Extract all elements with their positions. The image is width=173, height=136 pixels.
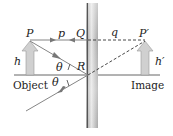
label-P-prime: P′ <box>138 27 149 40</box>
mirror <box>86 3 98 128</box>
plane-mirror-diagram: P p Q q P′ R h h′ θ θ Object Image <box>0 0 173 136</box>
angle-mark-reflected <box>67 80 69 86</box>
arrowhead-left-icon <box>69 38 75 43</box>
object-arrow <box>22 41 38 75</box>
label-P: P <box>25 27 34 40</box>
arrowhead-right-icon <box>50 38 56 43</box>
label-theta-incident: θ <box>56 61 63 74</box>
arrowhead-incident-icon <box>52 52 61 59</box>
label-q: q <box>111 26 118 39</box>
label-h: h <box>14 55 21 68</box>
label-image: Image <box>131 79 164 91</box>
label-p: p <box>58 27 65 40</box>
angle-mark-incident <box>68 64 70 70</box>
image-arrow <box>137 41 153 75</box>
label-h-prime: h′ <box>155 55 165 68</box>
label-object: Object <box>13 79 49 91</box>
label-R: R <box>76 60 85 73</box>
label-Q: Q <box>76 27 85 40</box>
label-theta-reflected: θ <box>52 76 59 89</box>
